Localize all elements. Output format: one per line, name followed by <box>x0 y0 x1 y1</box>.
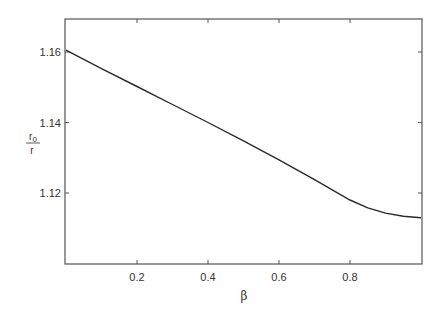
x-axis-ticks: 0.20.40.60.8 <box>129 19 357 283</box>
x-tick-label: 0.6 <box>271 271 286 283</box>
svg-text:r0: r0 <box>29 131 37 144</box>
x-axis-label: β <box>241 289 248 303</box>
y-tick-label: 1.12 <box>40 187 61 199</box>
y-axis-label: r0 r <box>26 131 40 156</box>
x-tick-label: 0.2 <box>129 271 144 283</box>
line-chart: 0.20.40.60.8 1.121.141.16 β r0 r <box>0 0 441 316</box>
data-line <box>66 50 421 218</box>
x-tick-label: 0.4 <box>200 271 215 283</box>
y-label-denominator: r <box>30 145 34 156</box>
y-tick-label: 1.14 <box>40 117 61 129</box>
y-axis-ticks: 1.121.141.16 <box>40 46 422 199</box>
x-tick-label: 0.8 <box>342 271 357 283</box>
y-tick-label: 1.16 <box>40 46 61 58</box>
